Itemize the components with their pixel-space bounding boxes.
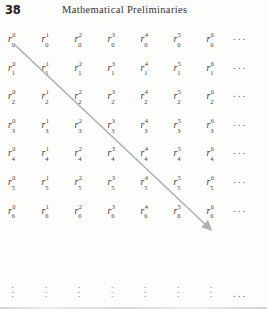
matrix-cell-subscript: 0 — [78, 41, 81, 48]
matrix-row: r04r14r24r34r44r54r64... — [0, 140, 267, 169]
matrix-cell-subscript: 4 — [210, 155, 213, 162]
matrix-cell-superscript: 4 — [145, 88, 148, 95]
ellipsis-dot: . — [76, 292, 82, 297]
chapter-title: Mathematical Preliminaries — [62, 4, 187, 15]
matrix-cell-superscript: 6 — [211, 31, 214, 38]
matrix-cell-superscript: 5 — [178, 60, 181, 67]
matrix-cell-subscript: 5 — [144, 184, 147, 191]
matrix-cell-superscript: 4 — [145, 203, 148, 210]
matrix-cell-subscript: 3 — [78, 127, 81, 134]
matrix-column-ellipsis: ... — [76, 283, 82, 297]
matrix-cell-subscript: 6 — [144, 212, 147, 219]
matrix-cell-superscript: 6 — [211, 203, 214, 210]
matrix-cell-r-4-6: r64 — [207, 140, 217, 167]
matrix-column-ellipsis: ... — [109, 283, 115, 297]
matrix-cell-subscript: 5 — [12, 184, 15, 191]
matrix-cell-r-5-3: r35 — [108, 169, 118, 196]
matrix-cell-superscript: 3 — [112, 174, 115, 181]
matrix-row: r06r16r26r36r46r56r66... — [0, 198, 267, 227]
matrix-cell-superscript: 1 — [46, 203, 49, 210]
matrix-cell-superscript: 4 — [145, 174, 148, 181]
matrix-cell-superscript: 5 — [178, 31, 181, 38]
matrix-cell-r-2-3: r32 — [108, 83, 118, 110]
matrix-cell-subscript: 1 — [111, 69, 114, 76]
matrix-cell-superscript: 3 — [112, 31, 115, 38]
matrix-cell-r-2-2: r22 — [75, 83, 85, 110]
matrix-cell-subscript: 2 — [12, 98, 15, 105]
matrix-cell-superscript: 0 — [12, 174, 15, 181]
matrix-cell-superscript: 6 — [211, 174, 214, 181]
matrix-cell-superscript: 1 — [46, 88, 49, 95]
matrix-cell-superscript: 0 — [12, 203, 15, 210]
matrix-cell-subscript: 1 — [78, 69, 81, 76]
matrix-cell-superscript: 5 — [178, 145, 181, 152]
matrix-cell-superscript: 5 — [178, 203, 181, 210]
matrix-cell-r-6-5: r56 — [174, 198, 184, 225]
matrix-cell-superscript: 4 — [145, 60, 148, 67]
matrix-cell-superscript: 3 — [112, 203, 115, 210]
matrix-cell-r-0-1: r10 — [42, 26, 52, 53]
matrix-cell-r-1-0: r01 — [8, 55, 18, 82]
matrix-cell-subscript: 2 — [177, 98, 180, 105]
matrix-cell-r-3-1: r13 — [42, 112, 52, 139]
matrix-cell-subscript: 2 — [45, 98, 48, 105]
matrix-row: r00r10r20r30r40r50r60... — [0, 26, 267, 55]
matrix-row-ellipsis: ... — [233, 26, 248, 48]
matrix-cell-subscript: 0 — [12, 41, 15, 48]
matrix-cell-superscript: 0 — [12, 145, 15, 152]
matrix-cell-r-1-4: r41 — [141, 55, 151, 82]
matrix-cell-subscript: 4 — [78, 155, 81, 162]
matrix-cell-superscript: 5 — [178, 117, 181, 124]
matrix-cell-superscript: 6 — [211, 145, 214, 152]
matrix-cell-r-4-0: r04 — [8, 140, 18, 167]
matrix-cell-r-0-5: r50 — [174, 26, 184, 53]
matrix-row-ellipsis: ... — [233, 140, 248, 162]
matrix-cell-superscript: 1 — [46, 31, 49, 38]
matrix-cell-r-6-1: r16 — [42, 198, 52, 225]
matrix-cell-subscript: 4 — [177, 155, 180, 162]
matrix-column-ellipsis: ... — [175, 283, 181, 297]
matrix-cell-subscript: 6 — [111, 212, 114, 219]
ellipsis-dot: . — [109, 292, 115, 297]
diagonalization-figure: r00r10r20r30r40r50r60...r01r11r21r31r41r… — [0, 26, 267, 309]
matrix-cell-r-4-4: r44 — [141, 140, 151, 167]
matrix-cell-subscript: 2 — [210, 98, 213, 105]
matrix-cell-superscript: 2 — [79, 31, 82, 38]
matrix-cell-r-2-1: r12 — [42, 83, 52, 110]
matrix-cell-superscript: 0 — [12, 117, 15, 124]
matrix-cell-superscript: 1 — [46, 60, 49, 67]
matrix-cell-subscript: 1 — [144, 69, 147, 76]
matrix-cell-r-4-1: r14 — [42, 140, 52, 167]
matrix-cell-r-4-5: r54 — [174, 140, 184, 167]
matrix-cell-subscript: 3 — [45, 127, 48, 134]
matrix-cell-superscript: 1 — [46, 145, 49, 152]
matrix-cell-subscript: 6 — [177, 212, 180, 219]
matrix-cell-subscript: 5 — [210, 184, 213, 191]
matrix-cell-subscript: 5 — [177, 184, 180, 191]
matrix-cell-subscript: 1 — [12, 69, 15, 76]
matrix-cell-superscript: 2 — [79, 145, 82, 152]
matrix-cell-subscript: 4 — [45, 155, 48, 162]
matrix-cell-superscript: 4 — [145, 31, 148, 38]
matrix-cell-r-0-3: r30 — [108, 26, 118, 53]
matrix-cell-superscript: 1 — [46, 117, 49, 124]
matrix-cell-subscript: 3 — [111, 127, 114, 134]
matrix-cell-r-3-5: r53 — [174, 112, 184, 139]
matrix-cell-superscript: 3 — [112, 88, 115, 95]
matrix-cell-superscript: 6 — [211, 88, 214, 95]
matrix-cell-subscript: 0 — [177, 41, 180, 48]
ellipsis-dot: . — [43, 292, 49, 297]
matrix-cell-superscript: 4 — [145, 145, 148, 152]
matrix-cell-subscript: 0 — [144, 41, 147, 48]
matrix-row-ellipsis: ... — [233, 198, 248, 220]
matrix-cell-subscript: 5 — [111, 184, 114, 191]
matrix-cell-r-3-6: r63 — [207, 112, 217, 139]
matrix-cell-r-6-0: r06 — [8, 198, 18, 225]
page-running-head: 38 Mathematical Preliminaries — [0, 0, 267, 26]
matrix-cell-r-3-3: r33 — [108, 112, 118, 139]
matrix-cell-superscript: 5 — [178, 174, 181, 181]
matrix-cell-superscript: 6 — [211, 117, 214, 124]
matrix-row-ellipsis: ... — [233, 112, 248, 134]
ellipsis-dot: . — [142, 292, 148, 297]
matrix-cell-superscript: 1 — [46, 174, 49, 181]
